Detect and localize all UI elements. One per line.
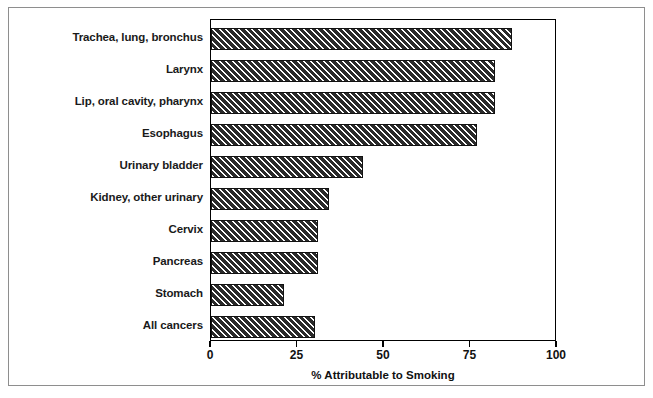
x-tick-label: 0 [207, 348, 214, 362]
x-tick-label: 75 [463, 348, 476, 362]
x-tick-mark [382, 341, 384, 347]
x-tick-label: 25 [290, 348, 303, 362]
category-label: Urinary bladder [20, 159, 203, 171]
x-tick-mark [555, 341, 557, 347]
x-tick-label: 100 [546, 348, 566, 362]
x-tick-mark [296, 341, 298, 347]
category-label: Stomach [20, 287, 203, 299]
category-label: Pancreas [20, 255, 203, 267]
bar [211, 156, 363, 178]
x-axis: 0 25 50 75 100 % Attributable to Smoking [210, 341, 556, 393]
x-tick-mark [469, 341, 471, 347]
x-tick-mark [209, 341, 211, 347]
x-tick-label: 50 [376, 348, 389, 362]
category-label: Larynx [20, 63, 203, 75]
bar [211, 188, 329, 210]
bar [211, 60, 495, 82]
category-label: Kidney, other urinary [20, 191, 203, 203]
bar [211, 252, 318, 274]
category-label: Lip, oral cavity, pharynx [20, 95, 203, 107]
bar-chart-figure: Trachea, lung, bronchus Larynx Lip, oral… [0, 0, 653, 398]
category-label: All cancers [20, 319, 203, 331]
bar [211, 284, 284, 306]
category-label: Cervix [20, 223, 203, 235]
bar [211, 316, 315, 338]
category-label: Esophagus [20, 127, 203, 139]
bar [211, 220, 318, 242]
category-axis-labels: Trachea, lung, bronchus Larynx Lip, oral… [20, 19, 203, 341]
bar [211, 92, 495, 114]
x-axis-title: % Attributable to Smoking [210, 369, 556, 381]
bar [211, 124, 477, 146]
bar [211, 28, 512, 50]
category-label: Trachea, lung, bronchus [20, 31, 203, 43]
plot-area [210, 19, 556, 341]
